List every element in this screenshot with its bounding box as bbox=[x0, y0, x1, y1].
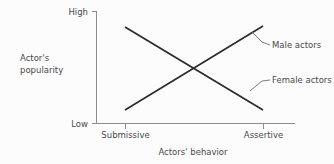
series-label-female-actors: Female actors bbox=[272, 75, 332, 85]
x-tick-label-submissive: Submissive bbox=[101, 130, 149, 140]
x-axis-title: Actors' behavior bbox=[158, 147, 228, 157]
chart-figure: High Low Actor's popularity Submissive A… bbox=[0, 0, 334, 164]
x-tick-label-assertive: Assertive bbox=[244, 130, 283, 140]
y-axis-label-low: Low bbox=[71, 119, 88, 129]
chart-canvas: High Low Actor's popularity Submissive A… bbox=[0, 0, 334, 164]
leader-line-male-actors bbox=[252, 32, 270, 45]
y-axis-title-line1: Actor's bbox=[20, 53, 50, 63]
y-axis-title-line2: popularity bbox=[20, 65, 63, 75]
leader-line-female-actors bbox=[250, 80, 270, 91]
series-label-male-actors: Male actors bbox=[272, 40, 322, 50]
y-axis-label-high: High bbox=[68, 7, 88, 17]
